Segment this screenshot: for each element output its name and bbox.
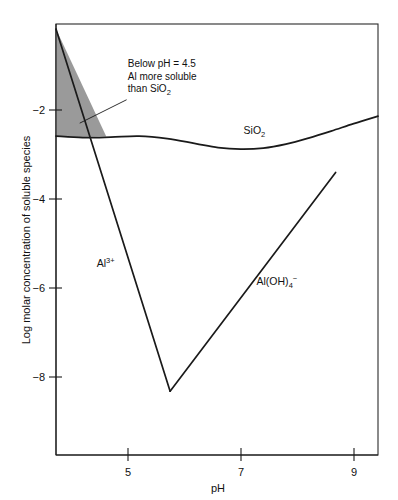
y-axis-title: Log molar concentration of soluble speci… bbox=[20, 135, 32, 344]
series-label-aloh4minus: Al(OH)4− bbox=[257, 274, 298, 290]
y-tick-label-minus6: −6 bbox=[32, 282, 45, 294]
series-line-aloh4minus bbox=[170, 172, 336, 391]
series-label-al3plus: Al3+ bbox=[97, 256, 116, 269]
series-label-sio2: SiO2 bbox=[244, 124, 266, 139]
annotation-line-1: Below pH = 4.5 bbox=[128, 58, 197, 69]
shaded-region-al-more-soluble bbox=[56, 29, 106, 137]
y-tick-label-minus2: −2 bbox=[32, 104, 45, 116]
plot-frame bbox=[56, 24, 378, 455]
figure-container: −2 −4 −6 −8 5 7 9 pH Log molar concentra… bbox=[0, 0, 398, 500]
y-tick-label-minus4: −4 bbox=[32, 193, 45, 205]
x-axis-title: pH bbox=[211, 482, 225, 494]
x-tick-label-5: 5 bbox=[125, 466, 131, 478]
annotation-line-3: than SiO2 bbox=[128, 83, 171, 97]
x-tick-label-9: 9 bbox=[351, 466, 357, 478]
annotation-line-2: Al more soluble bbox=[128, 71, 197, 82]
x-tick-label-7: 7 bbox=[238, 466, 244, 478]
y-tick-label-minus8: −8 bbox=[32, 371, 45, 383]
solubility-chart: −2 −4 −6 −8 5 7 9 pH Log molar concentra… bbox=[0, 0, 398, 500]
annotation-below-ph: Below pH = 4.5Al more solublethan SiO2 bbox=[128, 58, 197, 97]
